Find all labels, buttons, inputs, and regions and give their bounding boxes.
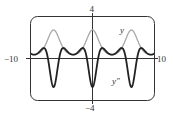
chart: −10 10 4 −4 y y″ (0, 0, 169, 120)
x-max-tick-label: 10 (157, 54, 167, 64)
x-min-tick-label: −10 (4, 54, 19, 64)
y-min-tick-label: −4 (85, 103, 95, 113)
y-max-tick-label: 4 (90, 4, 95, 14)
series-y-label: y (119, 25, 124, 35)
series-ypp-label: y″ (111, 76, 120, 86)
